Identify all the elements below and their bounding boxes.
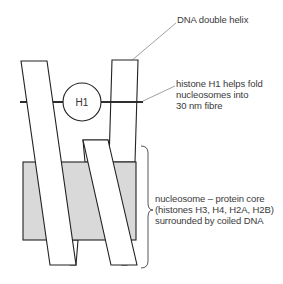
dna-leader-line [131,23,176,61]
nucleosome-brace [141,146,153,268]
nucleosome-label-line-2: (histones H3, H4, H2A, H2B) [155,204,274,215]
h1-label-line-3: 30 nm fibre [176,100,263,111]
nucleosome-label-line-3: surrounded by coiled DNA [155,215,274,226]
nucleosome-label-line-1: nucleosome – protein core [155,193,274,204]
h1-circle-label: H1 [76,97,89,108]
dna-double-helix-label: DNA double helix [177,14,248,25]
h1-leader-line [143,86,175,101]
chromatin-diagram: H1 [0,0,283,284]
histone-h1-label: histone H1 helps fold nucleosomes into 3… [176,78,263,111]
h1-label-line-2: nucleosomes into [176,89,263,100]
nucleosome-label: nucleosome – protein core (histones H3, … [155,193,274,226]
histone-h1: H1 [63,83,101,121]
h1-label-line-1: histone H1 helps fold [176,78,263,89]
